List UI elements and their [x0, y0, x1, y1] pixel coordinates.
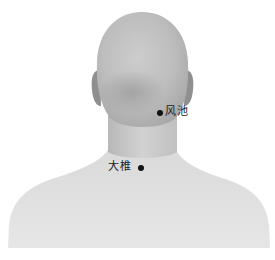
- fengchi-point-label: 风池: [165, 106, 188, 118]
- occipital-shadow: [98, 70, 166, 114]
- head-shoulders-figure: [0, 0, 275, 260]
- fengchi-point-marker: [157, 110, 163, 116]
- acupoint-illustration: 风池 大椎: [0, 0, 275, 260]
- dazhui-point-label: 大椎: [108, 161, 131, 173]
- dazhui-point-marker: [138, 165, 144, 171]
